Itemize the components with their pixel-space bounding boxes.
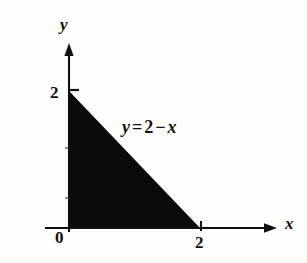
- equation-intercept: 2: [144, 117, 153, 137]
- equation-lhs: y: [122, 117, 130, 137]
- equation-minus-sign: −: [153, 117, 167, 137]
- curve-equation-label: y=2−x: [122, 118, 177, 136]
- x-axis-label: x: [285, 215, 294, 232]
- y-axis-tick-label-2: 2: [50, 84, 59, 101]
- y-axis-arrow-icon: [64, 43, 73, 56]
- shaded-region-polygon: [70, 92, 200, 228]
- x-axis-tick-label-2: 2: [195, 234, 204, 251]
- figure-container: y x 2 0 2 y=2−x: [0, 0, 307, 263]
- equation-variable: x: [168, 117, 177, 137]
- equation-equals-sign: =: [130, 117, 144, 137]
- y-axis-label: y: [60, 16, 68, 33]
- x-axis-arrow-icon: [264, 223, 277, 233]
- origin-label: 0: [55, 229, 64, 246]
